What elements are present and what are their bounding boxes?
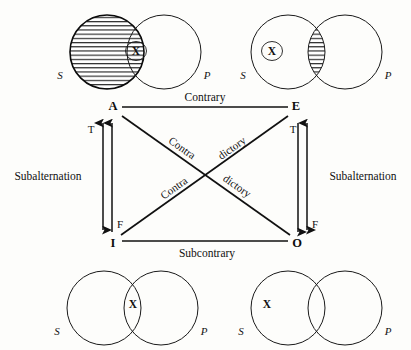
venn-bottom-right-s-label: S: [238, 325, 244, 337]
relation-label-subcontrary: Subcontrary: [179, 247, 235, 260]
venn-top-left-p-label: P: [203, 69, 211, 81]
corner-label-i: I: [111, 236, 116, 250]
venn-bottom-left-x-mark: X: [129, 298, 138, 310]
venn-top-left-x-mark: X: [132, 45, 141, 57]
relation-label-contradictory-lower-part2: dictory: [221, 172, 254, 200]
relation-label-contradictory-upper-part1: Contra: [167, 134, 198, 161]
venn-top-right-s-label: S: [240, 69, 246, 81]
square-of-opposition-figure: X S P X S P: [0, 0, 411, 350]
truth-marker-top-left: T: [88, 123, 95, 135]
venn-top-right-p-label: P: [384, 69, 392, 81]
truth-marker-bottom-left: F: [117, 218, 123, 230]
venn-bottom-right: X S P: [238, 271, 391, 345]
corner-label-e: E: [292, 99, 300, 113]
venn-top-left: X S P: [57, 15, 210, 89]
venn-top-right-x-mark: X: [268, 45, 277, 57]
venn-bottom-left: X S P: [54, 271, 207, 345]
corner-label-a: A: [108, 99, 117, 113]
venn-bottom-left-s-label: S: [54, 325, 60, 337]
venn-bottom-right-x-mark: X: [263, 298, 272, 310]
corner-label-o: O: [292, 236, 302, 250]
venn-top-right: X S P: [240, 10, 395, 100]
truth-marker-bottom-right: F: [312, 218, 318, 230]
relation-label-subalternation-right: Subalternation: [329, 170, 396, 182]
relation-label-contrary: Contrary: [185, 91, 226, 104]
venn-top-left-s-label: S: [57, 69, 63, 81]
figure-canvas: X S P X S P: [0, 0, 411, 350]
relation-label-subalternation-left: Subalternation: [14, 170, 81, 182]
truth-marker-top-right: T: [290, 123, 297, 135]
square-of-opposition: A E I O T T F F Contrary Subcontrary Sub…: [14, 91, 396, 260]
venn-bottom-left-p-label: P: [200, 325, 208, 337]
venn-bottom-right-p-label: P: [384, 325, 392, 337]
venn-bottom-right-p-circle: [308, 271, 382, 345]
